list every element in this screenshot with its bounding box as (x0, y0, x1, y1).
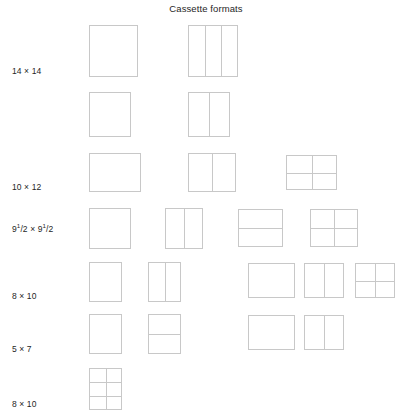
horizontal-divider (287, 173, 336, 174)
box-subdivisions (90, 26, 137, 76)
box-subdivisions (90, 369, 121, 409)
box-5x7-wide-2col (304, 315, 344, 350)
box-8x10a-2col (148, 262, 181, 302)
row-label: 8 × 10 (12, 399, 36, 409)
box-8x10a-plain (89, 262, 122, 302)
box-8x10a-wide-2x2 (355, 263, 395, 298)
box-8x10a-wide-2col (304, 263, 344, 298)
box-subdivisions (305, 264, 343, 297)
box-9half-2col (165, 208, 203, 249)
box-row2-plain (89, 92, 131, 137)
row-label: 91/2 × 91/2 (12, 224, 53, 234)
box-subdivisions (356, 264, 394, 297)
box-8x10b-2x3 (89, 368, 122, 410)
vertical-divider (209, 93, 210, 136)
box-14x14-3col (188, 25, 238, 77)
box-subdivisions (189, 26, 237, 76)
box-subdivisions (90, 315, 121, 353)
box-subdivisions (311, 210, 357, 246)
vertical-divider (106, 369, 107, 409)
row-label: 8 × 10 (12, 291, 36, 301)
vertical-divider (184, 209, 185, 248)
box-subdivisions (166, 209, 202, 248)
box-subdivisions (149, 315, 180, 353)
box-subdivisions (90, 154, 140, 191)
box-subdivisions (249, 316, 294, 349)
horizontal-divider (149, 334, 180, 335)
box-subdivisions (239, 210, 282, 246)
box-8x10a-wide-plain (248, 263, 295, 298)
horizontal-divider (90, 382, 121, 383)
box-9half-2row (238, 209, 283, 247)
box-5x7-plain (89, 314, 122, 354)
box-10x12-plain (89, 153, 141, 192)
box-subdivisions (287, 156, 336, 189)
horizontal-divider (311, 228, 357, 229)
row-label: 5 × 7 (12, 344, 32, 354)
vertical-divider (221, 26, 222, 76)
horizontal-divider (90, 396, 121, 397)
box-9half-plain (89, 208, 131, 249)
horizontal-divider (356, 281, 394, 282)
vertical-divider (324, 316, 325, 349)
box-14x14-plain (89, 25, 138, 77)
cassette-formats-diagram: Cassette formats 14 × 1410 × 1291/2 × 91… (0, 0, 412, 417)
horizontal-divider (239, 228, 282, 229)
box-subdivisions (90, 209, 130, 248)
box-5x7-wide-plain (248, 315, 295, 350)
vertical-divider (165, 263, 166, 301)
page-title: Cassette formats (0, 3, 412, 14)
box-subdivisions (90, 93, 130, 136)
box-subdivisions (189, 154, 235, 191)
box-subdivisions (249, 264, 294, 297)
vertical-divider (205, 26, 206, 76)
row-label: 14 × 14 (12, 66, 41, 76)
box-10x12-2col (188, 153, 236, 192)
box-subdivisions (149, 263, 180, 301)
box-10x12-2x2 (286, 155, 337, 190)
box-9half-2x2 (310, 209, 358, 247)
box-5x7-2row (148, 314, 181, 354)
box-row2-2col (188, 92, 230, 137)
vertical-divider (212, 154, 213, 191)
vertical-divider (324, 264, 325, 297)
box-subdivisions (189, 93, 229, 136)
box-subdivisions (90, 263, 121, 301)
box-subdivisions (305, 316, 343, 349)
row-label: 10 × 12 (12, 182, 41, 192)
